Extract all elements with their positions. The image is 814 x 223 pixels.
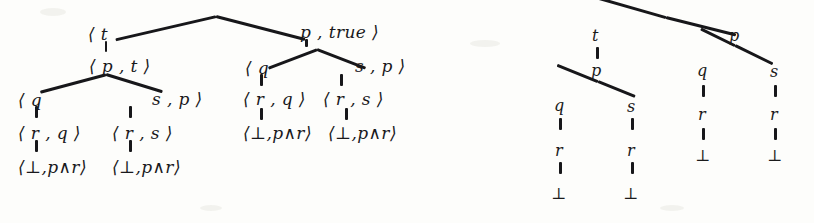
rnode-p1: p <box>729 26 739 45</box>
node-pair-bot-pandr-3: ⟨⊥,p∧r⟩ <box>18 159 87 176</box>
node-pair-q-open-2: ⟨ q <box>18 92 42 109</box>
node-pair-r-q: ⟨ r , q ⟩ <box>243 91 306 108</box>
scan-speck <box>470 40 500 47</box>
rnode-q2: q <box>554 96 564 115</box>
branch-sub-root-left <box>268 48 318 70</box>
stem-r-bot-4 <box>345 108 348 120</box>
scan-speck <box>660 205 684 211</box>
branch-root-right <box>216 15 306 41</box>
rnode-r2: r <box>770 105 778 124</box>
scan-speck <box>200 205 222 211</box>
figure-canvas: ⟨ t p , true ⟩ ⟨ p , t ⟩ ⟨ q s , p ⟩ ⟨ q… <box>0 0 814 223</box>
node-pair-bot-pandr-2: ⟨⊥,p∧r⟩ <box>328 125 397 142</box>
node-pair-r-q-2: ⟨ r , q ⟩ <box>18 125 81 142</box>
node-pair-r-s: ⟨ r , s ⟩ <box>323 91 384 108</box>
stem-r-t-p <box>596 47 599 59</box>
rnode-s2: s <box>627 97 635 116</box>
branch-root-left <box>115 15 216 41</box>
branch-p-q <box>40 73 107 94</box>
rnode-bot2: ⊥ <box>767 146 782 165</box>
node-pair-s-p-right: s , p ⟩ <box>355 58 406 75</box>
branch-r-p2-s <box>734 44 773 65</box>
stem-r-q-r-2 <box>702 85 705 97</box>
branch-r-root-right <box>666 16 737 37</box>
stem-r-r-bot-4 <box>774 128 777 140</box>
rnode-r3: r <box>555 141 563 160</box>
node-pair-p-t: ⟨ p , t ⟩ <box>89 58 151 75</box>
stem-r-q-r-1 <box>559 118 562 130</box>
node-pair-s-p: s , p ⟩ <box>152 91 203 108</box>
rnode-p2: p <box>591 61 601 80</box>
rnode-bot1: ⊥ <box>695 146 710 165</box>
rnode-bot4: ⊥ <box>623 184 638 203</box>
stem-r-s-r-2 <box>774 85 777 97</box>
stem-r-r-bot-1 <box>559 162 562 174</box>
stem-r-r-bot-3 <box>702 128 705 140</box>
rnode-t: t <box>592 26 598 45</box>
stem-r-r-bot-2 <box>631 162 634 174</box>
node-pair-bot-pandr-1: ⟨⊥,p∧r⟩ <box>243 125 312 142</box>
rnode-s1: s <box>770 62 778 81</box>
rnode-q1: q <box>697 61 707 80</box>
node-pair-r-s-2: ⟨ r , s ⟩ <box>112 125 173 142</box>
rnode-r1: r <box>698 105 706 124</box>
branch-r-root-left <box>595 0 666 19</box>
stem-r-bot-3 <box>260 108 263 120</box>
stem-s-r-2 <box>340 74 343 86</box>
node-pair-q-open: ⟨ q <box>245 60 269 77</box>
node-pair-bot-pandr-4: ⟨⊥,p∧r⟩ <box>112 159 181 176</box>
node-pair-t: ⟨ t <box>88 26 108 43</box>
rnode-bot3: ⊥ <box>551 184 566 203</box>
rnode-r4: r <box>627 141 635 160</box>
scan-speck <box>40 8 66 16</box>
stem-s-r-1 <box>129 106 132 118</box>
branch-r-p-s <box>597 80 635 98</box>
stem-r-s-r-1 <box>631 118 634 130</box>
node-pair-p-true: p , true ⟩ <box>300 24 379 41</box>
